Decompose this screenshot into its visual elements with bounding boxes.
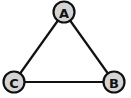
node-a-label: A: [59, 6, 69, 21]
node-b-label: B: [109, 76, 119, 91]
node-a: A: [54, 2, 75, 23]
edge-a-c: [14, 12, 64, 82]
node-c: C: [4, 72, 25, 93]
triangle-graph-diagram: A B C: [0, 0, 131, 98]
node-c-label: C: [9, 76, 19, 91]
node-b: B: [104, 72, 125, 93]
edge-a-b: [64, 12, 114, 82]
